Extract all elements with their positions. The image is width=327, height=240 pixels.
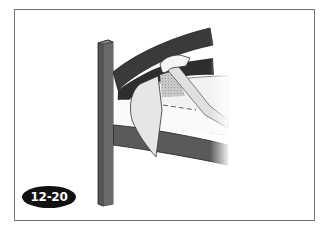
figure-number-badge: 12-20: [22, 186, 76, 208]
bed-post-face: [104, 42, 113, 206]
